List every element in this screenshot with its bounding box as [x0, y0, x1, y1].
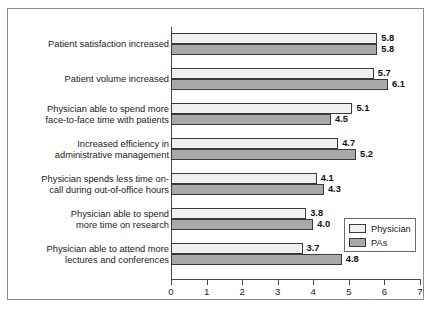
x-tick-label-4: 4 — [311, 286, 316, 297]
bar-pas-4 — [171, 184, 324, 195]
chart-legend: PhysicianPAs — [344, 218, 416, 252]
bar-pas-6 — [171, 254, 342, 265]
top-cropped-caption-sliver — [0, 0, 432, 4]
category-label-3: Increased efficiency in administrative m… — [17, 139, 169, 161]
bar-physician-1 — [171, 68, 374, 79]
x-tick-0 — [171, 280, 172, 285]
bar-physician-5 — [171, 208, 306, 219]
bar-pas-5 — [171, 219, 313, 230]
category-label-5: Physician able to spend more time on res… — [17, 209, 169, 231]
bar-value-physician-3: 4.7 — [342, 138, 355, 149]
chart-frame: Patient satisfaction increasedPatient vo… — [7, 8, 424, 300]
bar-physician-6 — [171, 243, 303, 254]
x-tick-6 — [384, 280, 385, 285]
legend-label-pas: PAs — [371, 237, 387, 249]
bar-value-physician-0: 5.8 — [381, 33, 394, 44]
bar-pas-3 — [171, 149, 356, 160]
x-tick-label-3: 3 — [275, 286, 280, 297]
x-tick-2 — [242, 280, 243, 285]
x-tick-label-6: 6 — [382, 286, 387, 297]
bar-pas-1 — [171, 79, 388, 90]
bar-value-pas-6: 4.8 — [346, 254, 359, 265]
bar-value-pas-1: 6.1 — [392, 79, 405, 90]
bar-value-physician-1: 5.7 — [378, 68, 391, 79]
x-tick-label-0: 0 — [168, 286, 173, 297]
x-tick-label-7: 7 — [417, 286, 422, 297]
x-tick-label-2: 2 — [239, 286, 244, 297]
bar-value-pas-3: 5.2 — [360, 149, 373, 160]
bar-value-pas-4: 4.3 — [328, 184, 341, 195]
bar-pas-0 — [171, 44, 377, 55]
legend-label-physician: Physician — [371, 223, 411, 235]
legend-swatch-pas-icon — [349, 238, 366, 247]
category-label-2: Physician able to spend more face-to-fac… — [17, 104, 169, 126]
legend-swatch-physician-icon — [349, 224, 366, 233]
bar-value-physician-4: 4.1 — [321, 173, 334, 184]
category-label-4: Physician spends less time on- call duri… — [17, 174, 169, 196]
bar-value-physician-5: 3.8 — [310, 208, 323, 219]
bar-pas-2 — [171, 114, 331, 125]
bar-value-pas-0: 5.8 — [381, 44, 394, 55]
x-tick-3 — [278, 280, 279, 285]
x-tick-7 — [420, 280, 421, 285]
bar-value-pas-5: 4.0 — [317, 219, 330, 230]
bar-value-physician-6: 3.7 — [307, 243, 320, 254]
x-tick-1 — [207, 280, 208, 285]
bar-value-pas-2: 4.5 — [335, 114, 348, 125]
x-tick-label-5: 5 — [346, 286, 351, 297]
bar-physician-3 — [171, 138, 338, 149]
bar-physician-0 — [171, 33, 377, 44]
category-label-6: Physician able to attend more lectures a… — [17, 244, 169, 266]
bar-value-physician-2: 5.1 — [356, 103, 369, 114]
bar-physician-4 — [171, 173, 317, 184]
x-tick-4 — [313, 280, 314, 285]
category-label-1: Patient volume increased — [17, 74, 169, 85]
category-axis-labels: Patient satisfaction increasedPatient vo… — [17, 19, 169, 281]
x-tick-label-1: 1 — [204, 286, 209, 297]
category-label-0: Patient satisfaction increased — [17, 39, 169, 50]
bar-physician-2 — [171, 103, 352, 114]
x-tick-5 — [349, 280, 350, 285]
